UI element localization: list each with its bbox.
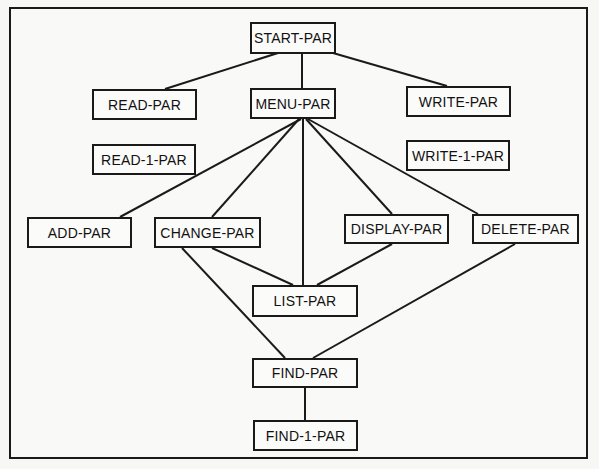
node-display: DISPLAY-PAR xyxy=(344,214,449,244)
node-label: DISPLAY-PAR xyxy=(351,221,442,237)
node-label: DELETE-PAR xyxy=(481,221,570,237)
edge-menu-to-change xyxy=(212,119,299,217)
node-read: READ-PAR xyxy=(92,89,197,120)
node-label: WRITE-1-PAR xyxy=(412,148,504,164)
edge-start-to-write xyxy=(333,53,447,86)
edge-menu-to-display xyxy=(306,119,392,214)
node-label: ADD-PAR xyxy=(48,225,111,241)
node-find1: FIND-1-PAR xyxy=(253,420,358,451)
edge-change-to-list xyxy=(212,248,293,285)
node-label: READ-1-PAR xyxy=(101,152,187,168)
node-label: CHANGE-PAR xyxy=(160,225,254,241)
node-label: LIST-PAR xyxy=(274,293,337,309)
node-label: FIND-PAR xyxy=(272,365,339,381)
node-label: FIND-1-PAR xyxy=(266,428,346,444)
node-label: START-PAR xyxy=(254,30,332,46)
node-change: CHANGE-PAR xyxy=(154,217,261,248)
edge-display-to-list xyxy=(317,244,392,285)
node-write1: WRITE-1-PAR xyxy=(406,140,510,171)
node-start: START-PAR xyxy=(250,22,336,54)
node-add: ADD-PAR xyxy=(27,217,132,248)
node-label: MENU-PAR xyxy=(255,96,330,112)
node-list: LIST-PAR xyxy=(252,285,358,317)
edge-start-to-read xyxy=(165,53,278,89)
node-read1: READ-1-PAR xyxy=(92,144,196,175)
node-find: FIND-PAR xyxy=(252,358,358,388)
node-delete: DELETE-PAR xyxy=(472,214,579,244)
node-menu: MENU-PAR xyxy=(250,88,336,119)
node-write: WRITE-PAR xyxy=(406,86,511,117)
node-label: WRITE-PAR xyxy=(419,94,498,110)
node-label: READ-PAR xyxy=(108,97,181,113)
